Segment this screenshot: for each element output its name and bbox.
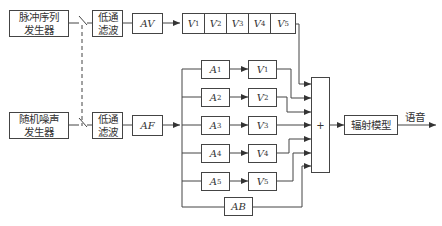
random-noise-generator-label: 随机噪声 发生器 (19, 113, 59, 139)
ab-bypass-block: AB (224, 197, 253, 216)
branch-a3-name: A (210, 120, 217, 131)
lowpass-filter-bottom-block: 低通 滤波 (92, 112, 123, 139)
radiation-model-block: 辐射模型 (344, 115, 398, 135)
speech-output-label: 语音 (405, 109, 425, 124)
branch-v1-block: V1 (248, 60, 277, 79)
cascade-v1-sub: 1 (195, 20, 199, 28)
branch-v2-block: V2 (248, 88, 277, 107)
pulse-train-generator-block: 脉冲序列 发生器 (9, 10, 69, 37)
branch-v3-block: V3 (248, 116, 277, 135)
branch-v2-sub: 2 (264, 94, 268, 102)
pulse-train-generator-label: 脉冲序列 发生器 (19, 11, 59, 37)
branch-a1-name: A (210, 64, 217, 75)
radiation-model-label: 辐射模型 (351, 119, 391, 132)
branch-v4-name: V (257, 148, 264, 159)
branch-a4-block: A4 (201, 144, 230, 163)
cascade-v3-name: V (232, 18, 239, 29)
branch-v5-name: V (257, 176, 264, 187)
af-gain-label: AF (140, 120, 154, 131)
summing-junction-block: + (311, 77, 330, 173)
cascade-v5-name: V (277, 18, 284, 29)
branch-v3-sub: 3 (264, 122, 268, 130)
branch-a2-sub: 2 (217, 94, 221, 102)
branch-a2-name: A (210, 92, 217, 103)
random-noise-generator-block: 随机噪声 发生器 (9, 112, 69, 139)
cascade-v5-block: V5 (270, 13, 296, 34)
lowpass-filter-top-block: 低通 滤波 (92, 10, 123, 37)
branch-a5-sub: 5 (217, 178, 221, 186)
cascade-v4-block: V4 (248, 13, 271, 34)
cascade-v2-name: V (210, 18, 217, 29)
branch-a5-block: A5 (201, 172, 230, 191)
ab-bypass-label: AB (231, 201, 246, 212)
branch-a3-block: A3 (201, 116, 230, 135)
branch-v1-sub: 1 (264, 66, 268, 74)
cascade-v3-sub: 3 (239, 20, 243, 28)
branch-a3-sub: 3 (217, 122, 221, 130)
av-gain-label: AV (141, 18, 155, 29)
cascade-v2-block: V2 (204, 13, 227, 34)
branch-v5-sub: 5 (264, 178, 268, 186)
cascade-v1-name: V (188, 18, 195, 29)
branch-v4-sub: 4 (264, 150, 268, 158)
cascade-v3-block: V3 (226, 13, 249, 34)
branch-a4-sub: 4 (217, 150, 221, 158)
branch-a1-sub: 1 (217, 66, 221, 74)
summing-junction-label: + (316, 120, 324, 131)
cascade-v2-sub: 2 (217, 20, 221, 28)
branch-a2-block: A2 (201, 88, 230, 107)
av-gain-block: AV (132, 13, 163, 34)
cascade-v1-block: V1 (182, 13, 205, 34)
branch-v5-block: V5 (248, 172, 277, 191)
branch-v2-name: V (257, 92, 264, 103)
branch-v3-name: V (257, 120, 264, 131)
cascade-v4-name: V (254, 18, 261, 29)
branch-a1-block: A1 (201, 60, 230, 79)
af-gain-block: AF (132, 115, 163, 136)
lowpass-filter-top-label: 低通 滤波 (98, 11, 118, 37)
branch-a4-name: A (210, 148, 217, 159)
cascade-v5-sub: 5 (284, 20, 288, 28)
branch-a5-name: A (210, 176, 217, 187)
lowpass-filter-bottom-label: 低通 滤波 (98, 113, 118, 139)
branch-v1-name: V (257, 64, 264, 75)
cascade-v4-sub: 4 (261, 20, 265, 28)
branch-v4-block: V4 (248, 144, 277, 163)
